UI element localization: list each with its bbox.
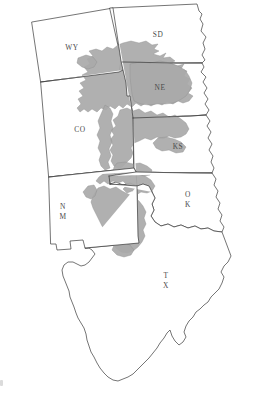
scan-artifact-speck	[0, 380, 3, 386]
state-label-ks: KS	[173, 142, 183, 151]
state-label-ok-line2: K	[185, 200, 191, 209]
map-canvas: WY SD NE CO KS N M O K T X	[0, 0, 254, 395]
aquifer-map-figure: WY SD NE CO KS N M O K T X	[0, 0, 254, 395]
state-label-nm-line2: M	[59, 212, 66, 221]
state-label-nm-line1: N	[60, 202, 66, 211]
state-label-co: CO	[74, 125, 85, 134]
state-label-ne: NE	[155, 83, 166, 92]
state-label-tx-line1: T	[163, 271, 168, 280]
state-label-tx-line2: X	[163, 281, 169, 290]
state-label-wy: WY	[65, 43, 78, 52]
state-label-sd: SD	[153, 30, 164, 39]
state-label-ok-line1: O	[185, 190, 191, 199]
